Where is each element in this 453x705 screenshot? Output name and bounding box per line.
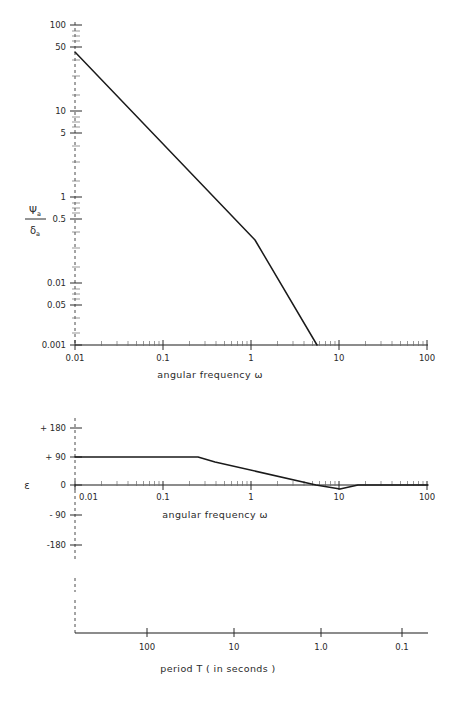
magnitude-x-tick-label: 10 bbox=[334, 353, 345, 363]
period-x-tick-label: 0.1 bbox=[395, 642, 409, 652]
phase-y-tick-label: + 180 bbox=[40, 423, 66, 433]
phase-panel: + 180 + 90 0 - 90 -180 ε bbox=[24, 418, 435, 560]
magnitude-y-title-denominator: δa bbox=[30, 225, 40, 238]
phase-x-axis-title: angular frequency ω bbox=[162, 509, 268, 520]
phase-y-tick-label: - 90 bbox=[49, 510, 66, 520]
magnitude-curve bbox=[75, 52, 317, 345]
magnitude-y-title-numerator: Ψa bbox=[29, 205, 41, 218]
phase-y-tick-label: + 90 bbox=[45, 452, 66, 462]
period-panel: 100 10 1.0 0.1 period T ( in seconds ) bbox=[75, 578, 428, 674]
plot-canvas: 100 50 10 5 1 0.5 0.01 0.05 0.001 Ψa δa bbox=[0, 0, 453, 705]
phase-y-tick-label: -180 bbox=[47, 540, 66, 550]
period-x-tick-label: 1.0 bbox=[314, 642, 328, 652]
magnitude-y-tick-label: 0.001 bbox=[42, 340, 66, 350]
phase-x-tick-label: 10 bbox=[334, 492, 345, 502]
magnitude-y-tick-label: 10 bbox=[55, 106, 66, 116]
phase-y-tick-label: 0 bbox=[61, 480, 66, 490]
phase-y-axis-title: ε bbox=[24, 480, 29, 491]
magnitude-y-tick-label: 1 bbox=[61, 192, 66, 202]
phase-y-major-ticks bbox=[70, 428, 82, 545]
magnitude-y-tick-label: 5 bbox=[61, 128, 66, 138]
magnitude-y-tick-label: 0.5 bbox=[52, 214, 66, 224]
period-x-tick-label: 100 bbox=[139, 642, 155, 652]
phase-x-tick-label: 100 bbox=[419, 492, 435, 502]
phase-x-tick-label: 0.1 bbox=[156, 492, 170, 502]
magnitude-y-tick-label: 0.05 bbox=[47, 300, 66, 310]
magnitude-y-minor-ticks bbox=[72, 31, 80, 333]
magnitude-panel: 100 50 10 5 1 0.5 0.01 0.05 0.001 Ψa δa bbox=[25, 20, 435, 380]
magnitude-x-tick-label: 100 bbox=[419, 353, 435, 363]
period-x-axis-title: period T ( in seconds ) bbox=[160, 663, 275, 674]
magnitude-x-tick-label: 0.01 bbox=[66, 353, 85, 363]
bode-plot-figure: 100 50 10 5 1 0.5 0.01 0.05 0.001 Ψa δa bbox=[0, 0, 453, 705]
magnitude-y-tick-label: 0.01 bbox=[47, 278, 66, 288]
magnitude-y-tick-label: 50 bbox=[55, 42, 66, 52]
phase-x-tick-label: 1 bbox=[248, 492, 253, 502]
period-x-tick-label: 10 bbox=[229, 642, 240, 652]
magnitude-y-major-ticks bbox=[70, 25, 82, 345]
magnitude-x-axis-title: angular frequency ω bbox=[157, 369, 263, 380]
magnitude-y-tick-label: 100 bbox=[50, 20, 66, 30]
phase-x-tick-label: 0.01 bbox=[79, 492, 98, 502]
magnitude-y-axis-title: Ψa δa bbox=[25, 205, 46, 238]
magnitude-x-tick-label: 1 bbox=[248, 353, 253, 363]
magnitude-x-tick-label: 0.1 bbox=[156, 353, 170, 363]
